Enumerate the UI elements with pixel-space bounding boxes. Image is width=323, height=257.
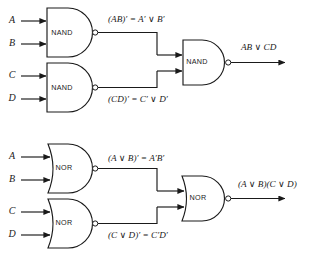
gate-nor-output-label: NOR [190, 193, 207, 202]
wire-nor-top-to-output [98, 169, 157, 192]
input-label-d-nand: D [7, 92, 16, 103]
gate-nand-bottom-label: NAND [51, 83, 73, 92]
wire-nor-bottom-to-output [98, 207, 157, 224]
input-label-a-nand: A [8, 14, 16, 25]
gate-nand-bottom-bubble [93, 85, 98, 90]
label-aorb-complement: (A ∨ B)′ = A′B′ [108, 153, 165, 163]
input-label-b-nand: B [9, 37, 15, 48]
gate-nor-output-bubble [226, 196, 231, 201]
nor-circuit: A B C D NOR NOR N [7, 144, 296, 248]
gate-nor-top-bubble [93, 166, 98, 171]
logic-diagram: A B C D NAND NAND [0, 0, 323, 257]
input-label-b-nor: B [9, 173, 15, 184]
input-label-c-nand: C [9, 69, 16, 80]
gate-nor-bottom-label: NOR [56, 218, 73, 227]
gate-nand-top-bubble [93, 30, 98, 35]
label-output-nand: AB ∨ CD [240, 42, 277, 52]
input-label-d-nor: D [7, 228, 16, 239]
input-label-a-nor: A [8, 150, 16, 161]
gate-nand-top-label: NAND [51, 28, 73, 37]
label-output-nor: (A ∨ B)(C ∨ D) [238, 179, 297, 189]
gate-nor-top-label: NOR [56, 163, 73, 172]
wire-nand-top-to-output [98, 33, 157, 56]
nand-circuit: A B C D NAND NAND [7, 8, 285, 112]
label-corD-complement: (C ∨ D)′ = C′D′ [108, 230, 169, 240]
label-cd-complement: (CD)′ = C′ ∨ D′ [108, 94, 169, 104]
gate-nor-bottom-bubble [93, 221, 98, 226]
gate-nand-output-label: NAND [186, 57, 208, 66]
gate-nand-output-bubble [226, 60, 231, 65]
label-ab-complement: (AB)′ = A′ ∨ B′ [108, 14, 166, 24]
input-label-c-nor: C [9, 205, 16, 216]
wire-nand-bottom-to-output [98, 71, 157, 88]
